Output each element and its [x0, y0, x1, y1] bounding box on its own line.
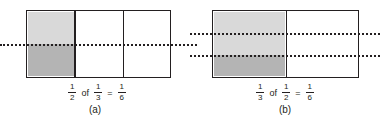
panel-b-vertical-divider-1: [286, 10, 287, 78]
panel-b-dotted-line-1: [190, 33, 380, 35]
panel-a-dark-shade: [28, 44, 75, 76]
denominator: 2: [68, 93, 76, 102]
panel-a-dotted-line-1: [0, 44, 197, 46]
panel-a-operator-of: of: [80, 88, 90, 98]
panel-b-area-model: [212, 10, 359, 78]
panel-b-dotted-line-2: [190, 55, 380, 57]
numerator: 1: [306, 83, 314, 93]
denominator: 3: [256, 93, 264, 102]
panel-a-caption: (a): [0, 104, 190, 115]
numerator: 1: [118, 83, 126, 93]
panel-a-equals-sign: =: [106, 88, 113, 98]
panel-a-fraction-one-third: 1 3: [94, 83, 102, 102]
panel-b-operator-of: of: [268, 88, 278, 98]
panel-a-equation: 1 2 of 1 3 = 1 6: [0, 83, 192, 102]
denominator: 6: [306, 93, 314, 102]
panel-a-area-model: [26, 10, 171, 78]
numerator: 1: [68, 83, 76, 93]
panel-a-fraction-result: 1 6: [118, 83, 126, 102]
denominator: 2: [282, 93, 290, 102]
fraction-multiplication-figure: 1 2 of 1 3 = 1 6 (a): [0, 0, 380, 126]
numerator: 1: [256, 83, 264, 93]
panel-b-caption: (b): [190, 104, 380, 115]
panel-b-fraction-one-third: 1 3: [256, 83, 264, 102]
panel-b-fraction-one-half: 1 2: [282, 83, 290, 102]
denominator: 6: [118, 93, 126, 102]
panel-b-dark-shade: [214, 55, 286, 76]
panel-a-fraction-one-half: 1 2: [68, 83, 76, 102]
panel-a-light-shade: [28, 12, 75, 44]
numerator: 1: [282, 83, 290, 93]
panel-b: 1 3 of 1 2 = 1 6 (b): [190, 0, 380, 126]
panel-a: 1 2 of 1 3 = 1 6 (a): [0, 0, 190, 126]
panel-b-equation: 1 3 of 1 2 = 1 6: [190, 83, 380, 102]
panel-b-equals-sign: =: [294, 88, 301, 98]
denominator: 3: [94, 93, 102, 102]
panel-b-fraction-result: 1 6: [306, 83, 314, 102]
numerator: 1: [94, 83, 102, 93]
